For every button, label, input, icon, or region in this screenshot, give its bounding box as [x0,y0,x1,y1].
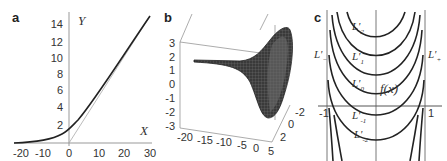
svg-text:L'-2: L'-2 [353,128,369,144]
svg-text:10: 10 [93,147,105,159]
x-tick-one: 1 [428,107,434,119]
svg-text:2: 2 [169,51,175,63]
svg-text:-2: -2 [295,106,305,118]
svg-text:12: 12 [51,36,63,48]
svg-text:10: 10 [51,52,63,64]
panel-b: b 3 2 1 0 -1 -2 -3 -20 -15 -10 -5 0 [150,0,315,161]
y-axis-label: Y [78,13,87,28]
svg-text:2: 2 [57,119,63,131]
svg-text:5: 5 [268,145,274,157]
y-ticks: -2 0 2 [280,106,305,143]
svg-text:8: 8 [57,68,63,80]
panel-a: a 2 4 6 8 10 12 14 -20 -10 0 10 20 30 Y … [0,0,160,161]
L-minus-label: L'− [313,48,327,64]
panel-b-label: b [164,10,172,25]
x-ticks: -20 -10 0 10 20 30 [13,147,156,159]
svg-text:-3: -3 [165,120,175,132]
svg-text:-10: -10 [216,136,232,148]
panel-c-label: c [314,10,321,25]
svg-text:L'-1: L'-1 [351,109,366,125]
svg-text:20: 20 [118,147,130,159]
svg-text:-2: -2 [165,106,175,118]
svg-text:1: 1 [169,64,175,76]
svg-text:0: 0 [253,142,259,154]
panel-c: c L'2 L'1 L'0 L'-1 L'-2 L'− L'+ [310,0,447,161]
svg-text:6: 6 [57,84,63,96]
svg-text:3: 3 [169,37,175,49]
f-x-label: f(x) [380,81,398,96]
svg-text:-20: -20 [177,131,193,143]
svg-text:L'2: L'2 [351,20,364,36]
svg-text:4: 4 [57,101,63,113]
svg-text:0: 0 [288,118,294,130]
main-curve [14,16,150,143]
x-tick-minus-one: -1 [319,107,329,119]
svg-text:-15: -15 [197,134,213,146]
x-axis-label: X [139,123,149,138]
svg-text:-20: -20 [13,147,29,159]
svg-text:0: 0 [66,147,72,159]
svg-text:-1: -1 [165,92,175,104]
z-ticks: 3 2 1 0 -1 -2 -3 [165,37,175,132]
L-plus-label: L'+ [427,48,441,64]
y-ticks: 2 4 6 8 10 12 14 [51,18,63,131]
svg-text:-5: -5 [237,139,247,151]
panel-a-label: a [12,10,20,25]
svg-text:14: 14 [51,18,63,30]
svg-text:-10: -10 [35,147,51,159]
svg-text:L'0: L'0 [351,77,364,93]
svg-text:2: 2 [280,131,286,143]
svg-text:0: 0 [169,78,175,90]
